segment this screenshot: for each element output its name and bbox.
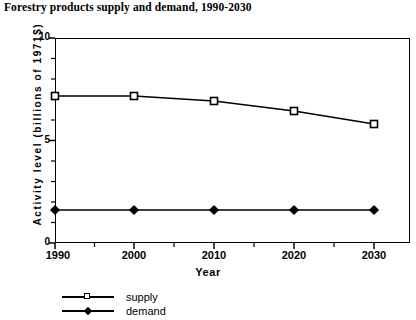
x-tick-label-2010: 2010 — [184, 249, 244, 261]
x-axis-label: Year — [0, 266, 416, 278]
x-tick-label-2000: 2000 — [104, 249, 164, 261]
legend-item-supply: supply — [62, 290, 166, 304]
legend-marker-filled-diamond-icon — [62, 304, 114, 318]
x-tick-label-1990: 1990 — [28, 249, 88, 261]
chart-container: Forestry products supply and demand, 199… — [0, 0, 416, 320]
legend-label-demand: demand — [126, 305, 166, 317]
x-tick-label-2030: 2030 — [344, 249, 404, 261]
x-tick-label-2020: 2020 — [264, 249, 324, 261]
legend-item-demand: demand — [62, 304, 166, 318]
legend-label-supply: supply — [126, 291, 158, 303]
chart-legend: supply demand — [62, 290, 166, 318]
y-tick-label-0: 0 — [20, 236, 50, 247]
series-markers-supply — [52, 93, 378, 128]
y-tick-label-10: 10 — [20, 31, 50, 42]
y-tick-label-5: 5 — [20, 134, 50, 145]
legend-marker-open-square-icon — [62, 290, 114, 304]
